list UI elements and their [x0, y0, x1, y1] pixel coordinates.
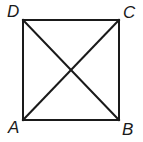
- geometry-figure: D C A B: [0, 0, 143, 142]
- vertex-label-D: D: [7, 3, 19, 20]
- vertex-label-C: C: [123, 4, 135, 21]
- vertex-label-B: B: [122, 121, 133, 138]
- vertex-label-A: A: [8, 119, 19, 136]
